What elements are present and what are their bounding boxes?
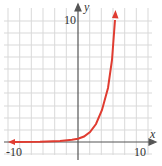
y-axis-label: y xyxy=(84,0,89,15)
axes xyxy=(4,4,156,160)
y-tick-10: 10 xyxy=(64,13,76,28)
x-tick-max: 10 xyxy=(134,145,146,160)
chart: y x 10 -10 10 xyxy=(0,0,162,166)
x-tick-min: -10 xyxy=(6,145,22,160)
plot-area xyxy=(0,0,162,166)
x-axis-label: x xyxy=(150,127,155,142)
